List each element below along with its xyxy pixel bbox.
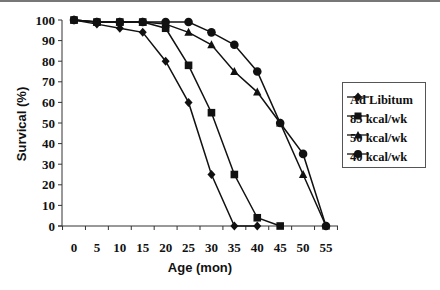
x-tick-label: 10 bbox=[113, 240, 126, 255]
diamond-marker-icon bbox=[347, 91, 369, 103]
series-85-kcal-wk bbox=[70, 16, 284, 230]
legend-item-ad-libitum: Ad Libitum bbox=[347, 91, 413, 109]
circle-marker-icon bbox=[347, 148, 369, 160]
x-tick-label: 5 bbox=[94, 240, 101, 255]
y-tick-label: 0 bbox=[49, 219, 56, 234]
axes: 0102030405060708090100051015202530354045… bbox=[36, 13, 339, 256]
y-tick-label: 30 bbox=[42, 157, 55, 172]
y-tick-label: 40 bbox=[42, 136, 55, 151]
x-tick-label: 35 bbox=[228, 240, 242, 255]
x-tick-label: 25 bbox=[182, 240, 196, 255]
legend-item-50-kcal: 50 kcal/wk bbox=[347, 129, 407, 147]
y-tick-label: 100 bbox=[36, 13, 56, 28]
y-tick-label: 10 bbox=[42, 198, 55, 213]
y-tick-label: 60 bbox=[42, 95, 55, 110]
x-tick-label: 20 bbox=[159, 240, 172, 255]
square-marker-icon bbox=[347, 110, 369, 122]
legend-item-40-kcal: 40 kcal/wk bbox=[347, 148, 407, 166]
series-40-kcal-wk bbox=[70, 16, 331, 231]
series-group bbox=[70, 16, 331, 231]
x-tick-label: 30 bbox=[205, 240, 218, 255]
x-tick-label: 55 bbox=[320, 240, 334, 255]
y-tick-label: 80 bbox=[42, 54, 55, 69]
y-tick-label: 50 bbox=[42, 116, 55, 131]
x-tick-label: 50 bbox=[297, 240, 310, 255]
series-50-kcal-wk bbox=[70, 16, 330, 230]
y-tick-label: 20 bbox=[42, 177, 55, 192]
x-axis-label: Age (mon) bbox=[168, 260, 232, 275]
x-tick-label: 0 bbox=[71, 240, 78, 255]
x-tick-label: 45 bbox=[274, 240, 288, 255]
y-axis-label: Survical (%) bbox=[14, 87, 29, 161]
y-tick-label: 90 bbox=[42, 33, 55, 48]
x-tick-label: 15 bbox=[136, 240, 150, 255]
y-tick-label: 70 bbox=[42, 74, 55, 89]
legend-item-85-kcal: 85 kcal/wk bbox=[347, 110, 407, 128]
triangle-marker-icon bbox=[347, 129, 369, 141]
legend: Ad Libitum 85 kcal/wk 50 kcal/wk 40 kcal… bbox=[342, 82, 426, 168]
x-tick-label: 40 bbox=[251, 240, 264, 255]
